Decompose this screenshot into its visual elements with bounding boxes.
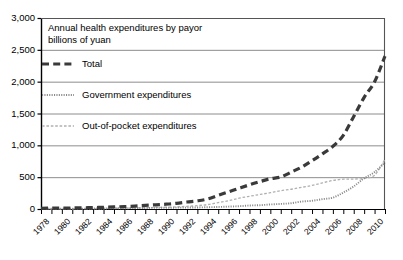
legend-label-total: Total: [82, 59, 102, 69]
y-axis-tick-label: 1,000: [11, 140, 35, 150]
y-axis-tick-label: 3,000: [11, 13, 35, 23]
chart-subtitle: billions of yuan: [48, 34, 202, 46]
chart-figure: 3,0002,5002,0001,5001,000500019781980198…: [0, 0, 403, 260]
legend-swatch-out-of-pocket: [42, 121, 74, 131]
legend-swatch-total: [42, 59, 74, 69]
y-axis-tick-label: 500: [19, 172, 35, 182]
chart-title: Annual health expenditures by payor: [48, 22, 202, 34]
legend-swatch-government: [42, 90, 74, 100]
y-axis-tick-label: 2,500: [11, 45, 35, 55]
y-axis-tick-label: 1,500: [11, 109, 35, 119]
y-axis-tick-label: 2,000: [11, 77, 35, 87]
chart-title-block: Annual health expenditures by payorbilli…: [48, 22, 202, 45]
legend-label-government: Government expenditures: [82, 90, 191, 100]
legend-label-out-of-pocket: Out-of-pocket expenditures: [82, 121, 197, 131]
y-axis-tick-label: 0: [30, 204, 35, 214]
